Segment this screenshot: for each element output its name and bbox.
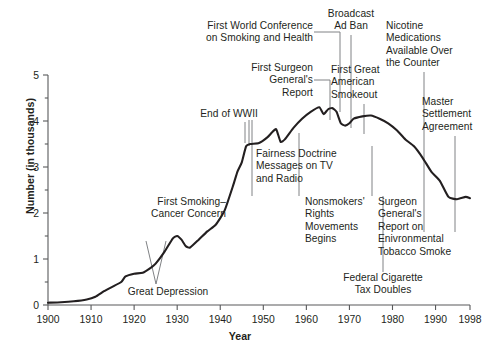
annotation-first-surgeon-generals-report: First Surgeon General's Report	[200, 62, 313, 99]
svg-text:1930: 1930	[166, 314, 189, 325]
svg-text:1950: 1950	[252, 314, 275, 325]
svg-text:1: 1	[33, 254, 39, 265]
annotation-first-great-american-smokeout: First Great American Smokeout	[331, 64, 395, 101]
annotation-nicotine-medications: Nicotine Medications Available Over the …	[386, 20, 476, 70]
svg-text:0: 0	[33, 300, 39, 311]
y-axis-title: Number (in thousands)	[24, 96, 36, 216]
x-axis-title: Year	[180, 330, 300, 342]
svg-text:1990: 1990	[424, 314, 447, 325]
annotation-federal-cigarette-tax-doubles: Federal Cigarette Tax Doubles	[330, 272, 436, 297]
svg-text:1980: 1980	[381, 314, 404, 325]
annotation-great-depression: Great Depression	[116, 286, 220, 298]
svg-text:1910: 1910	[79, 314, 102, 325]
annotation-broadcast-ad-ban: Broadcast Ad Ban	[320, 8, 382, 33]
svg-text:1998: 1998	[458, 314, 481, 325]
annotation-fairness-doctrine: Fairness Doctrine Messages on TV and Rad…	[256, 148, 349, 185]
svg-text:1960: 1960	[295, 314, 318, 325]
svg-text:1970: 1970	[338, 314, 361, 325]
svg-text:5: 5	[33, 70, 39, 81]
annotation-first-smoking-cancer-concern: First Smoking– Cancer Concern	[120, 196, 226, 221]
annotation-master-settlement-agreement: Master Settlement Agreement	[422, 96, 486, 133]
svg-text:1900: 1900	[36, 314, 59, 325]
chart-figure: 0123451900191019201930194019501960197019…	[0, 0, 486, 349]
annotation-first-world-conference: First World Conference on Smoking and He…	[160, 20, 313, 45]
svg-text:1940: 1940	[209, 314, 232, 325]
svg-text:1920: 1920	[123, 314, 146, 325]
annotation-end-of-wwii: End of WWII	[178, 108, 258, 120]
annotation-nonsmokers-rights: Nonsmokers' Rights Movements Begins	[305, 196, 375, 246]
annotation-surgeon-generals-report-ets: Surgeon General's Report on Enivronmenta…	[378, 196, 474, 258]
